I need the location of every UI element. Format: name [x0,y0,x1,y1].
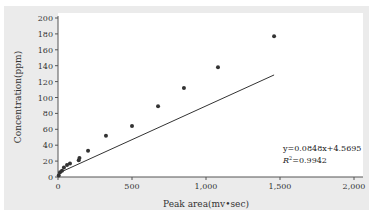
data-point [68,161,72,165]
x-tick-label: 1,500 [269,182,292,191]
data-point [77,156,81,160]
data-point [86,149,90,153]
scatter-chart: 02040608010012014016018020005001,0001,50… [0,0,373,214]
data-point [272,34,276,38]
y-tick-label: 100 [38,94,53,103]
y-tick-label: 160 [38,46,53,55]
y-tick-label: 60 [43,125,53,134]
x-tick-label: 1,000 [195,182,218,191]
r-squared-label: R2=0.9942 [282,155,327,165]
y-tick-label: 40 [43,141,53,150]
x-tick-label: 0 [55,182,60,191]
x-tick-label: 500 [124,182,139,191]
y-tick-label: 80 [43,109,53,118]
y-tick-label: 180 [38,30,53,39]
x-axis-label: Peak area(mv•sec) [163,199,249,209]
data-points [57,34,276,177]
y-tick-label: 20 [43,157,53,166]
data-point [182,86,186,90]
data-point [156,104,160,108]
x-tick-label: 2,000 [343,182,366,191]
y-tick-label: 200 [38,14,53,23]
y-tick-label: 140 [38,62,53,71]
y-tick-label: 0 [48,173,53,182]
equation-label: y=0.0848x+4.5695 [282,144,361,153]
y-tick-label: 120 [38,78,53,87]
trendline [58,75,274,173]
data-point [216,65,220,69]
data-point [130,124,134,128]
data-point [104,134,108,138]
y-axis-label: Concentration(ppm) [13,51,23,143]
